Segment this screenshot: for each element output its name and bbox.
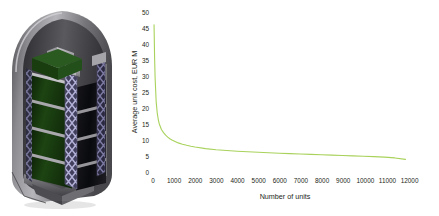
lattice-truss-left bbox=[26, 68, 32, 182]
x-axis-tick-labels: 0 1000 2000 3000 4000 5000 6000 7000 800… bbox=[151, 177, 419, 184]
svg-text:7000: 7000 bbox=[294, 177, 309, 184]
x-axis-title: Number of units bbox=[260, 192, 311, 201]
svg-text:9000: 9000 bbox=[336, 177, 351, 184]
svg-text:12000: 12000 bbox=[401, 177, 419, 184]
average-unit-cost-chart: 0 5 10 15 20 25 30 35 40 45 50 0 1000 20… bbox=[131, 0, 439, 216]
svg-text:8000: 8000 bbox=[315, 177, 330, 184]
svg-text:0: 0 bbox=[151, 177, 155, 184]
svg-text:6000: 6000 bbox=[273, 177, 288, 184]
svg-text:10000: 10000 bbox=[357, 177, 375, 184]
svg-text:15: 15 bbox=[142, 121, 150, 128]
svg-text:5: 5 bbox=[145, 153, 149, 160]
svg-text:5000: 5000 bbox=[252, 177, 267, 184]
y-axis-title: Average unit cost, EUR M bbox=[131, 51, 139, 134]
svg-text:45: 45 bbox=[142, 25, 150, 32]
lattice-truss-right bbox=[97, 61, 105, 176]
svg-text:11000: 11000 bbox=[379, 177, 397, 184]
svg-text:25: 25 bbox=[142, 89, 150, 96]
svg-text:0: 0 bbox=[145, 169, 149, 176]
figure-canvas: 0 5 10 15 20 25 30 35 40 45 50 0 1000 20… bbox=[0, 0, 439, 216]
svg-text:3000: 3000 bbox=[209, 177, 224, 184]
svg-text:35: 35 bbox=[142, 57, 150, 64]
svg-text:2000: 2000 bbox=[188, 177, 203, 184]
plot-background bbox=[131, 0, 439, 216]
svg-text:4000: 4000 bbox=[230, 177, 245, 184]
svg-text:40: 40 bbox=[142, 41, 150, 48]
svg-text:10: 10 bbox=[142, 137, 150, 144]
svg-text:50: 50 bbox=[142, 9, 150, 16]
svg-text:30: 30 bbox=[142, 73, 150, 80]
svg-text:1000: 1000 bbox=[167, 177, 182, 184]
svg-text:20: 20 bbox=[142, 105, 150, 112]
lattice-truss-front bbox=[65, 72, 77, 189]
satellite-stack-illustration bbox=[2, 6, 130, 211]
